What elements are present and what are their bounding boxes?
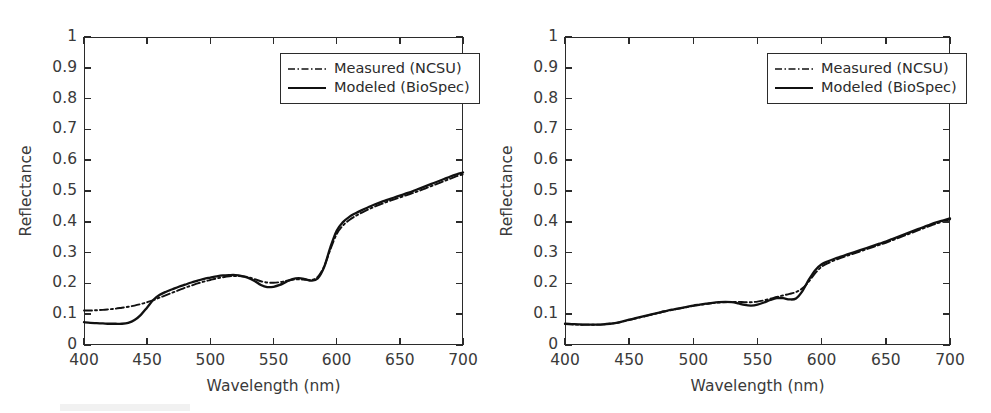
x-tick [83, 338, 85, 345]
y-axis-title-left: Reflectance [17, 146, 35, 237]
y-axis-title-right: Reflectance [498, 146, 516, 237]
x-tick [462, 37, 464, 44]
x-tick [210, 37, 212, 44]
y-tick [456, 129, 463, 131]
y-tick [456, 159, 463, 161]
y-tick-label: 0.7 [52, 122, 77, 138]
x-tick [399, 37, 401, 44]
plot-area-left: 00.10.20.30.40.50.60.70.80.9140045050055… [84, 37, 463, 345]
x-tick [210, 338, 212, 345]
x-tick [757, 37, 759, 44]
y-tick [565, 36, 572, 38]
x-axis-title-right: Wavelength (nm) [691, 377, 825, 395]
x-tick [949, 338, 951, 345]
dash-dot-line-icon [288, 63, 326, 75]
y-tick [943, 159, 950, 161]
y-tick [943, 313, 950, 315]
dark-skin-panel: 00.10.20.30.40.50.60.70.80.9140045050055… [496, 0, 991, 413]
x-tick [693, 37, 695, 44]
y-tick [456, 221, 463, 223]
y-tick [943, 129, 950, 131]
x-tick [273, 338, 275, 345]
series-line-modeled [565, 218, 950, 324]
x-tick [336, 37, 338, 44]
x-tick-label: 700 [935, 353, 965, 369]
x-tick [146, 37, 148, 44]
page-artifact [60, 404, 190, 411]
y-tick-label: 0.4 [533, 214, 558, 230]
y-tick [456, 313, 463, 315]
y-tick [565, 159, 572, 161]
x-tick-label: 450 [614, 353, 644, 369]
y-tick [565, 252, 572, 254]
y-tick [943, 221, 950, 223]
legend-entry-modeled: Modeled (BioSpec) [288, 78, 470, 97]
y-tick-label: 0.1 [52, 306, 77, 322]
x-tick-label: 550 [259, 353, 289, 369]
legend-label-modeled: Modeled (BioSpec) [334, 80, 470, 95]
y-tick-label: 1 [548, 29, 558, 45]
plot-area-right: 00.10.20.30.40.50.60.70.80.9140045050055… [565, 37, 950, 345]
y-tick-label: 0.1 [533, 306, 558, 322]
legend-entry-measured: Measured (NCSU) [775, 59, 957, 78]
dash-dot-line-icon [775, 63, 813, 75]
y-tick [84, 313, 91, 315]
y-tick-label: 0.2 [52, 276, 77, 292]
y-tick [84, 190, 91, 192]
y-tick [565, 313, 572, 315]
x-tick-label: 700 [448, 353, 478, 369]
y-tick [565, 67, 572, 69]
y-tick [84, 98, 91, 100]
y-tick-label: 0.8 [533, 91, 558, 107]
y-tick [456, 283, 463, 285]
y-tick [943, 252, 950, 254]
y-tick [84, 36, 91, 38]
x-tick [628, 37, 630, 44]
x-tick-label: 400 [550, 353, 580, 369]
solid-line-icon [288, 82, 326, 94]
light-skin-panel: 00.10.20.30.40.50.60.70.80.9140045050055… [0, 0, 496, 413]
x-tick-label: 450 [132, 353, 162, 369]
y-tick-label: 0.7 [533, 122, 558, 138]
y-tick-label: 0.3 [533, 245, 558, 261]
x-tick [757, 338, 759, 345]
y-tick-label: 0.5 [52, 183, 77, 199]
y-tick-label: 0.6 [52, 152, 77, 168]
legend-entry-measured: Measured (NCSU) [288, 59, 470, 78]
x-tick [564, 37, 566, 44]
x-tick [693, 338, 695, 345]
y-tick-label: 0.3 [52, 245, 77, 261]
y-tick-label: 0.6 [533, 152, 558, 168]
x-tick-label: 550 [743, 353, 773, 369]
y-tick [943, 283, 950, 285]
reflectance-figure: 00.10.20.30.40.50.60.70.80.9140045050055… [0, 0, 991, 413]
legend-label-modeled: Modeled (BioSpec) [821, 80, 957, 95]
y-tick [565, 98, 572, 100]
y-tick [565, 283, 572, 285]
legend-entry-modeled: Modeled (BioSpec) [775, 78, 957, 97]
y-tick [565, 190, 572, 192]
x-tick [336, 338, 338, 345]
y-tick [84, 67, 91, 69]
x-tick [949, 37, 951, 44]
y-tick [565, 344, 572, 346]
legend-label-measured: Measured (NCSU) [334, 61, 462, 76]
y-tick-label: 0.2 [533, 276, 558, 292]
x-tick [628, 338, 630, 345]
solid-line-icon [775, 82, 813, 94]
y-tick [565, 221, 572, 223]
legend-left: Measured (NCSU) Modeled (BioSpec) [280, 53, 480, 104]
legend-right: Measured (NCSU) Modeled (BioSpec) [767, 53, 967, 104]
x-axis-title-left: Wavelength (nm) [207, 377, 341, 395]
y-tick [943, 190, 950, 192]
y-tick [84, 283, 91, 285]
y-tick [84, 221, 91, 223]
y-tick [456, 190, 463, 192]
x-tick [83, 37, 85, 44]
series-line-measured [565, 219, 950, 324]
legend-label-measured: Measured (NCSU) [821, 61, 949, 76]
y-tick [84, 252, 91, 254]
x-tick-label: 600 [807, 353, 837, 369]
x-tick [399, 338, 401, 345]
y-tick [84, 159, 91, 161]
